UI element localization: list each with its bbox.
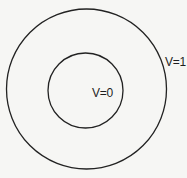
diagram-canvas: V=1 V=0 <box>0 0 187 178</box>
inner-boundary-potential-label: V=0 <box>92 87 113 99</box>
outer-circle-boundary <box>7 9 167 169</box>
outer-boundary-potential-label: V=1 <box>165 56 186 68</box>
